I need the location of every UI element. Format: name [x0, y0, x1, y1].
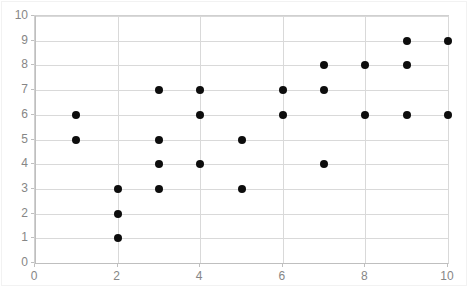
x-axis-tick-label: 4 [184, 270, 214, 282]
y-axis-tick-label: 8 [4, 58, 28, 70]
data-point[interactable] [279, 111, 287, 119]
gridline-vertical [283, 16, 284, 263]
x-axis-tick-label: 0 [19, 270, 49, 282]
data-point[interactable] [155, 86, 163, 94]
x-axis-tick-label: 10 [432, 270, 462, 282]
data-point[interactable] [196, 111, 204, 119]
x-axis-tick-mark [34, 264, 35, 267]
y-axis-tick-label: 1 [4, 231, 28, 243]
data-point[interactable] [196, 86, 204, 94]
data-point[interactable] [114, 185, 122, 193]
y-axis-tick-label: 10 [4, 9, 28, 21]
data-point[interactable] [320, 86, 328, 94]
x-axis-tick-mark [447, 264, 448, 267]
data-point[interactable] [361, 111, 369, 119]
x-axis-tick-mark [364, 264, 365, 267]
data-point[interactable] [444, 37, 452, 45]
data-point[interactable] [72, 111, 80, 119]
x-axis-tick-label: 6 [267, 270, 297, 282]
data-point[interactable] [403, 61, 411, 69]
x-axis-tick-mark [117, 264, 118, 267]
gridline-horizontal [35, 41, 448, 42]
y-axis-tick-label: 0 [4, 256, 28, 268]
gridline-vertical [118, 16, 119, 263]
y-axis-tick-label: 3 [4, 182, 28, 194]
data-point[interactable] [114, 210, 122, 218]
data-point[interactable] [361, 61, 369, 69]
y-axis-tick-label: 4 [4, 157, 28, 169]
data-point[interactable] [444, 111, 452, 119]
gridline-horizontal [35, 65, 448, 66]
y-axis-tick-label: 6 [4, 108, 28, 120]
data-point[interactable] [196, 160, 204, 168]
gridline-horizontal [35, 214, 448, 215]
y-axis-tick-label: 7 [4, 83, 28, 95]
gridline-vertical [365, 16, 366, 263]
x-axis-tick-mark [282, 264, 283, 267]
chart-frame: 012345678910 0246810 [1, 1, 467, 286]
x-axis-tick-label: 2 [102, 270, 132, 282]
gridline-horizontal [35, 16, 448, 17]
data-point[interactable] [114, 234, 122, 242]
data-point[interactable] [238, 136, 246, 144]
data-point[interactable] [403, 111, 411, 119]
scatter-chart: 012345678910 0246810 [0, 0, 470, 289]
gridline-vertical [200, 16, 201, 263]
y-axis-line [35, 16, 36, 263]
gridline-horizontal [35, 115, 448, 116]
y-axis-tick-label: 2 [4, 207, 28, 219]
gridline-horizontal [35, 164, 448, 165]
data-point[interactable] [320, 61, 328, 69]
x-axis-line [35, 263, 448, 264]
data-point[interactable] [72, 136, 80, 144]
data-point[interactable] [155, 160, 163, 168]
x-axis-tick-label: 8 [349, 270, 379, 282]
data-point[interactable] [155, 136, 163, 144]
data-point[interactable] [403, 37, 411, 45]
data-point[interactable] [238, 185, 246, 193]
plot-area [34, 15, 449, 264]
gridline-horizontal [35, 238, 448, 239]
gridline-horizontal [35, 90, 448, 91]
data-point[interactable] [320, 160, 328, 168]
gridline-vertical [448, 16, 449, 263]
y-axis-tick-label: 9 [4, 34, 28, 46]
data-point[interactable] [279, 86, 287, 94]
y-axis-tick-label: 5 [4, 133, 28, 145]
data-point[interactable] [155, 185, 163, 193]
x-axis-tick-mark [199, 264, 200, 267]
